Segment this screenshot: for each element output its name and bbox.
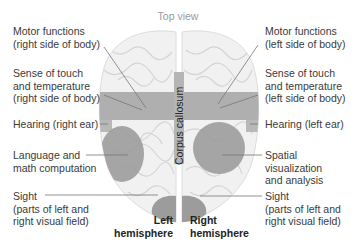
sensory-band-right <box>182 92 262 120</box>
label-touch-right-body: Sense of touch and temperature (right si… <box>13 67 100 105</box>
right-hemisphere <box>182 31 262 222</box>
label-sight-right: Sight (parts of left and right visual fi… <box>265 190 341 228</box>
label-touch-left-body: Sense of touch and temperature (left sid… <box>265 67 346 105</box>
spatial-region <box>193 122 245 174</box>
label-sight-left: Sight (parts of left and right visual fi… <box>13 190 89 228</box>
left-hemisphere-label: Left hemisphere <box>114 214 173 240</box>
label-hearing-left-ear: Hearing (left ear) <box>265 118 344 131</box>
label-hearing-right-ear: Hearing (right ear) <box>13 118 98 131</box>
hearing-region-left <box>96 120 112 132</box>
label-language-math: Language and math computation <box>13 149 96 174</box>
language-region <box>100 126 144 182</box>
label-motor-left-body: Motor functions (left side of body) <box>265 25 346 50</box>
label-motor-right-body: Motor functions (right side of body) <box>13 25 100 50</box>
hearing-region-right <box>246 120 262 132</box>
right-hemisphere-label: Right hemisphere <box>190 214 249 240</box>
label-spatial: Spatial visualization and analysis <box>265 149 323 187</box>
corpus-callosum-label: Corpus callosum <box>173 87 185 165</box>
left-hemisphere <box>96 31 176 222</box>
